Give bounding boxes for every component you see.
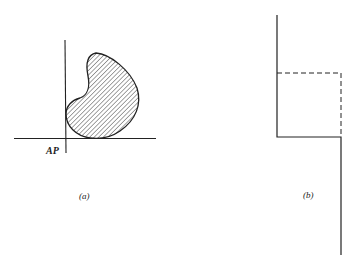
figure-b: (b) [277, 15, 341, 255]
caption-b: (b) [303, 190, 314, 200]
axis-label-ap: AP [45, 145, 60, 156]
hatched-region [66, 53, 139, 138]
caption-a: (a) [79, 191, 90, 201]
vertical-axis [65, 40, 66, 153]
diagram-canvas: AP (a) (b) [0, 0, 356, 267]
figure-a: AP (a) [14, 40, 156, 201]
step-line [277, 15, 341, 255]
